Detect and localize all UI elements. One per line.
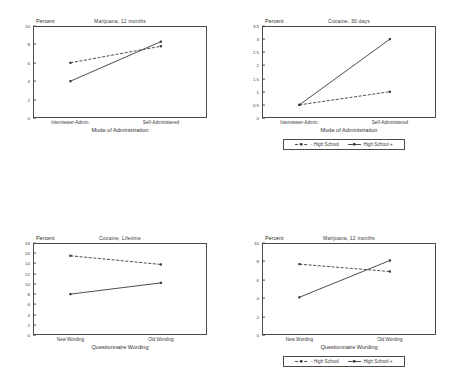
figure-sheet: PercentMarijuana, 12 months0246810Interv… — [0, 0, 454, 377]
legend-line-swatch — [295, 359, 308, 364]
legend-label: High School + — [363, 359, 392, 364]
series-layer — [0, 0, 454, 377]
data-point-marker — [389, 270, 391, 272]
series-line — [299, 260, 389, 297]
legend-entry: High School + — [348, 359, 393, 364]
data-point-marker — [298, 296, 300, 298]
legend-label: - High School — [311, 359, 339, 364]
data-point-marker — [298, 263, 300, 265]
chart-legend: - High SchoolHigh School + — [283, 356, 405, 367]
legend-line-swatch — [348, 359, 361, 364]
legend-entry: - High School — [295, 359, 339, 364]
series-line — [299, 264, 389, 271]
data-point-marker — [389, 259, 391, 261]
